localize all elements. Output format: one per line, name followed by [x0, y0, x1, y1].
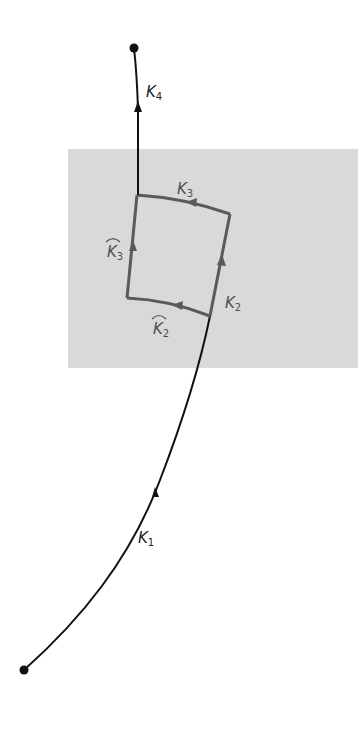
arrow-k1-icon: [152, 487, 159, 497]
arrow-k4-icon: [134, 101, 142, 112]
label-k1: K1: [138, 529, 154, 548]
start-point: [20, 666, 29, 675]
end-point: [130, 44, 139, 53]
curve-k1: [24, 316, 210, 670]
label-k4: K4: [146, 83, 162, 102]
diagram-canvas: K4 K3 K3 K2 K2 K1: [0, 0, 358, 731]
